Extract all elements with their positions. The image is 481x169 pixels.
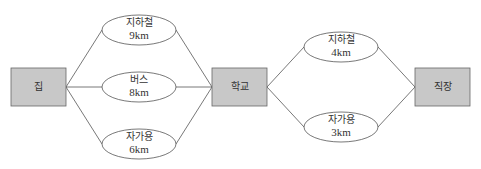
- route-distance: 8km: [102, 86, 176, 98]
- school-label: 학교: [212, 68, 267, 106]
- route-label-subway-9km: 지하철 9km: [102, 17, 176, 41]
- edge-school-subway: [267, 47, 304, 87]
- edge-subway-work: [378, 47, 415, 87]
- route-distance: 6km: [102, 143, 176, 155]
- home-label: 집: [11, 68, 66, 106]
- work-label: 직장: [415, 68, 470, 106]
- route-mode: 버스: [102, 74, 176, 86]
- route-mode: 지하철: [102, 17, 176, 29]
- edge-school-car: [267, 87, 304, 127]
- route-label-car-3km: 자가용 3km: [304, 114, 378, 138]
- route-label-subway-4km: 지하철 4km: [304, 34, 378, 58]
- edge-subway-school: [176, 30, 212, 87]
- route-mode: 자가용: [102, 131, 176, 143]
- route-distance: 4km: [304, 46, 378, 58]
- route-label-bus-8km: 버스 8km: [102, 74, 176, 98]
- route-mode: 지하철: [304, 34, 378, 46]
- route-distance: 9km: [102, 29, 176, 41]
- edge-home-car: [66, 87, 102, 144]
- edge-car-school: [176, 87, 212, 144]
- route-distance: 3km: [304, 126, 378, 138]
- route-label-car-6km: 자가용 6km: [102, 131, 176, 155]
- edge-car-work: [378, 87, 415, 127]
- edge-home-subway: [66, 30, 102, 87]
- route-mode: 자가용: [304, 114, 378, 126]
